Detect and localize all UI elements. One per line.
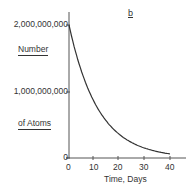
x-tick-label: 10 [89, 162, 98, 172]
y-axis-label-line2: of Atoms [18, 118, 51, 130]
y-tick-label: 2,000,000,000 [14, 19, 68, 29]
x-tick-label: 20 [113, 162, 122, 172]
panel-label: b [128, 8, 133, 18]
x-tick-label: 30 [139, 162, 148, 172]
y-tick-label: 1,000,000,000 [14, 86, 68, 96]
x-tick-label: 0 [66, 162, 71, 172]
decay-curve [69, 25, 170, 154]
y-axis-label-line1: Number [18, 44, 48, 56]
x-tick-label: 40 [165, 162, 174, 172]
y-tick-label: 0 [63, 152, 68, 162]
x-axis-label: Time, Days [104, 174, 147, 184]
